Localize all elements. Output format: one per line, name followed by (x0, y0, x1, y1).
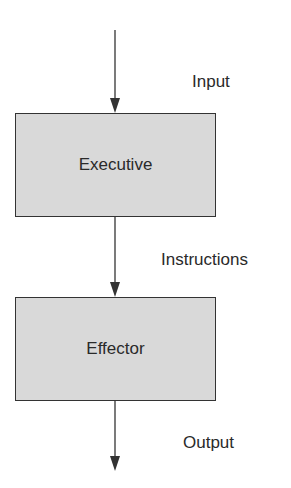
instructions-label: Instructions (161, 250, 248, 270)
executive-box: Executive (15, 113, 216, 217)
output-arrow (110, 400, 120, 471)
executive-label: Executive (79, 155, 153, 175)
instructions-arrow (110, 217, 120, 297)
input-label: Input (192, 72, 230, 92)
arrows-layer (0, 0, 291, 488)
effector-box: Effector (15, 297, 216, 401)
effector-label: Effector (86, 339, 144, 359)
output-label: Output (183, 433, 234, 453)
input-arrow (110, 30, 120, 113)
